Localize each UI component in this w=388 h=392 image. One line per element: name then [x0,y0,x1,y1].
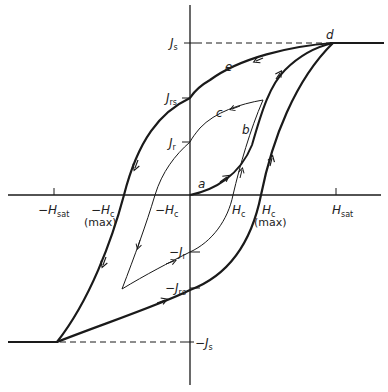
x-label-neg-hc: −Hc [155,203,179,219]
x-label-hsat: Hsat [332,203,353,219]
svg-text:Jrs: Jrs [164,91,177,107]
x-label-neg-hsat: −Hsat [38,203,69,219]
x-label-hc: Hc [232,203,245,219]
y-label-jrs: Jrs [164,91,177,107]
arrow-e [256,58,263,61]
curve-label-e: e [225,60,232,74]
svg-text:(max): (max) [84,216,117,229]
major-loop-descending [57,43,333,342]
curve-label-d: d [326,28,334,42]
arrow-minor-bottom [166,261,174,264]
svg-text:Js: Js [168,36,178,52]
svg-text:−Jr: −Jr [169,245,187,261]
curve-label-a: a [198,177,205,191]
svg-text:−Js: −Js [195,336,213,352]
curve-label-c: c [216,106,223,120]
y-label-jr: Jr [167,136,177,152]
y-label-neg-jrs: −Jrs [165,281,186,297]
svg-text:Hc: Hc [232,203,245,219]
hysteresis-diagram: a b c d e Js Jrs Jr −Jr −Jrs −Js −Hsat −… [0,0,388,392]
svg-text:Jr: Jr [167,136,177,152]
arrow-minor-left [138,240,140,247]
initial-magnetization-curve [190,43,333,195]
svg-text:−Hsat: −Hsat [38,203,69,219]
svg-text:(max): (max) [254,216,287,229]
svg-text:Hsat: Hsat [332,203,353,219]
svg-text:−Hc: −Hc [155,203,179,219]
y-label-js: Js [168,36,178,52]
y-label-neg-jr: −Jr [169,245,187,261]
y-label-neg-js: −Js [195,336,213,352]
svg-text:−Jrs: −Jrs [165,281,186,297]
x-label-neg-hc-max: −Hc (max) [84,203,117,229]
arrow-minor-right [240,170,242,178]
curve-label-b: b [242,123,250,137]
major-loop-ascending [57,43,333,342]
